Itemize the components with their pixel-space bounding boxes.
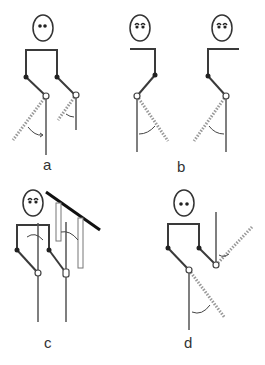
panel-label-d: d bbox=[184, 334, 192, 351]
panel-b-left: b bbox=[130, 15, 185, 175]
panel-label-b: b bbox=[177, 158, 185, 175]
head-icon bbox=[174, 190, 194, 216]
panel-a: a bbox=[13, 15, 79, 173]
panel-c: c bbox=[15, 190, 101, 351]
panel-b-right bbox=[194, 15, 239, 152]
head-icon bbox=[23, 190, 43, 216]
head-icon bbox=[130, 15, 150, 41]
diagram-canvas: a b bbox=[0, 0, 265, 365]
head-icon bbox=[212, 15, 232, 41]
head-icon bbox=[33, 15, 53, 41]
panel-label-c: c bbox=[44, 334, 52, 351]
panel-d: d bbox=[166, 190, 253, 351]
panel-label-a: a bbox=[43, 156, 52, 173]
